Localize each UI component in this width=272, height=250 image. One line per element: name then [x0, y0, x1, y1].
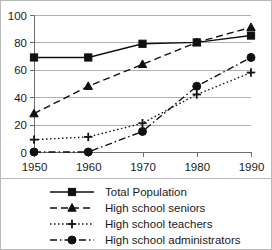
svg-text:1990: 1990 [239, 161, 265, 173]
svg-text:20: 20 [14, 119, 27, 131]
legend-swatch-high-school-administrators [49, 233, 95, 247]
legend-label: High school administrators [105, 233, 241, 247]
x-axis-tick-labels: 19501960197019801990 [22, 161, 265, 173]
y-axis-tick-labels: 020406080100 [8, 10, 27, 159]
svg-text:100: 100 [8, 10, 27, 22]
svg-text:0: 0 [21, 147, 27, 159]
svg-text:1950: 1950 [22, 161, 48, 173]
plot-area: 020406080100 19501960197019801990 [1, 1, 271, 178]
legend-swatch-total-population [49, 185, 95, 199]
svg-text:1970: 1970 [130, 161, 156, 173]
legend-item: High school teachers [1, 216, 272, 232]
chart-figure: 020406080100 19501960197019801990 Total … [0, 0, 272, 250]
svg-text:1980: 1980 [184, 161, 210, 173]
svg-text:60: 60 [14, 64, 27, 76]
legend-label: Total Population [105, 185, 187, 199]
svg-text:80: 80 [14, 37, 27, 49]
svg-text:40: 40 [14, 92, 27, 104]
chart-legend: Total Population High school seniors Hig… [1, 184, 272, 248]
legend-swatch-high-school-teachers [49, 217, 95, 231]
legend-label: High school seniors [105, 201, 205, 215]
legend-separator [1, 178, 272, 179]
line-chart-svg: 020406080100 19501960197019801990 [1, 1, 271, 178]
legend-item: High school administrators [1, 232, 272, 248]
y-axis-ticks [30, 16, 34, 153]
legend-item: Total Population [1, 184, 272, 200]
legend-item: High school seniors [1, 200, 272, 216]
svg-text:1960: 1960 [76, 161, 102, 173]
legend-label: High school teachers [105, 217, 212, 231]
legend-swatch-high-school-seniors [49, 201, 95, 215]
